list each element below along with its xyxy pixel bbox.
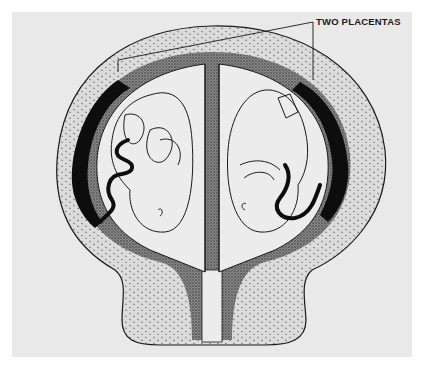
twin-uterus-diagram	[0, 0, 424, 365]
two-placentas-label: TWO PLACENTAS	[316, 16, 401, 27]
cervical-canal	[202, 270, 222, 342]
